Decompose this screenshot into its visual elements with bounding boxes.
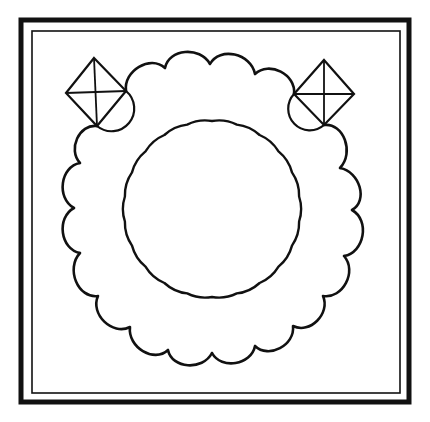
- right-diamond-ornament: [288, 60, 354, 130]
- diagram-canvas: [0, 0, 430, 422]
- ornament-drawing: [0, 0, 430, 422]
- left-diamond-ornament: [66, 58, 134, 131]
- inner-ring-path: [123, 120, 301, 297]
- inner-cusped-circle: [123, 120, 301, 297]
- inner-thin-frame: [32, 31, 400, 393]
- diamond-horizontal-line: [66, 91, 126, 93]
- diamond-semicircle-arc: [288, 94, 324, 130]
- diamond-semicircle-arc: [97, 91, 134, 131]
- scallop-arcs: [63, 52, 363, 365]
- outer-scalloped-ring: [63, 52, 363, 365]
